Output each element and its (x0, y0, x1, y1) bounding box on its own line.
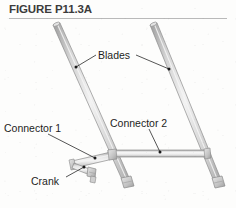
leader-blades-left (76, 55, 96, 67)
leader-dot-crank (83, 166, 86, 169)
figure-panel: FIGURE P11.3A (0, 0, 236, 208)
blade-left-base-block (121, 176, 134, 188)
label-blades: Blades (98, 49, 130, 61)
leader-dot-blade-right (168, 68, 171, 71)
leader-connector-1 (48, 134, 95, 158)
leader-dot-connector-1 (94, 157, 97, 160)
leader-dot-blade-left (75, 66, 78, 69)
connector-2-bar (108, 148, 211, 159)
label-connector-2: Connector 2 (110, 117, 167, 129)
blade-right-base-block (212, 176, 225, 188)
leader-connector-2 (149, 129, 160, 152)
label-connector-1: Connector 1 (4, 122, 61, 134)
label-crank: Crank (31, 175, 59, 187)
blade-right (150, 21, 225, 188)
leader-dot-connector-2 (159, 151, 162, 154)
